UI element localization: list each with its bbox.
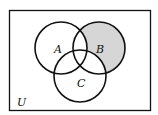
set-a-label: A — [53, 43, 62, 56]
venn-diagram: A B C U — [0, 0, 158, 115]
set-b-label: B — [95, 43, 104, 56]
universe-label: U — [17, 96, 27, 109]
set-c-label: C — [77, 77, 86, 90]
